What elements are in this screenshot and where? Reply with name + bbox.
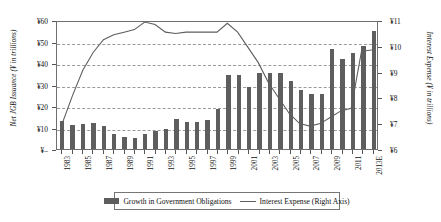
x-axis-tick-mark — [342, 150, 343, 154]
y-axis-right-tick-mark — [378, 21, 382, 22]
y-axis-right-tick-mark — [378, 47, 382, 48]
x-axis-tick-mark — [196, 150, 197, 154]
x-axis-tick-label: 1985 — [85, 156, 93, 170]
x-axis-tick-label: 2013E — [376, 156, 384, 175]
x-axis-tick-mark — [362, 150, 363, 154]
x-axis-tick-mark — [217, 150, 218, 154]
interest-expense-line — [62, 22, 372, 126]
line-series — [57, 22, 377, 149]
x-axis-tick-mark — [238, 150, 239, 154]
x-axis-tick-mark — [103, 150, 104, 154]
x-axis-tick-label: 1999 — [230, 156, 238, 170]
y-axis-left-tick-label: ¥30 — [22, 82, 48, 91]
x-axis-tick-mark — [72, 150, 73, 154]
y-axis-right-tick-label: ¥9 — [390, 69, 416, 78]
x-axis-tick-mark — [331, 150, 332, 154]
y-axis-left-tick-label: ¥50 — [22, 39, 48, 48]
x-axis-tick-label: 2007 — [313, 156, 321, 170]
x-axis-tick-mark — [82, 150, 83, 154]
chart-legend: Growth in Government Obligations Interes… — [114, 192, 340, 210]
x-axis-tick-mark — [248, 150, 249, 154]
legend-entry-bars: Growth in Government Obligations — [104, 197, 231, 206]
x-axis-tick-label: 2003 — [272, 156, 280, 170]
legend-bar-label: Growth in Government Obligations — [123, 197, 231, 206]
y-axis-right-tick-mark — [378, 73, 382, 74]
y-axis-right-tick-label: ¥10 — [390, 43, 416, 52]
x-axis-tick-mark — [310, 150, 311, 154]
y-axis-left-tick-label: ¥40 — [22, 60, 48, 69]
x-axis-tick-mark — [134, 150, 135, 154]
y-axis-left-tick-mark — [52, 150, 56, 151]
y-axis-left-tick-label: ¥– — [22, 146, 48, 155]
x-axis-tick-label: 1983 — [64, 156, 72, 170]
y-axis-left-tick-label: ¥20 — [22, 103, 48, 112]
x-axis-tick-mark — [227, 150, 228, 154]
y-axis-left-title: Net JGB Issuance (¥ in trillions) — [10, 18, 18, 138]
x-axis-tick-mark — [155, 150, 156, 154]
x-axis-tick-mark — [269, 150, 270, 154]
x-axis-tick-label: 2001 — [251, 156, 259, 170]
x-axis-tick-mark — [61, 150, 62, 154]
y-axis-right-tick-mark — [378, 150, 382, 151]
y-axis-left-tick-label: ¥60 — [22, 17, 48, 26]
x-axis-tick-mark — [207, 150, 208, 154]
x-axis-tick-mark — [175, 150, 176, 154]
y-axis-right-tick-label: ¥8 — [390, 94, 416, 103]
x-axis-tick-mark — [300, 150, 301, 154]
x-axis-tick-mark — [186, 150, 187, 154]
y-axis-right-title: Interest Expense (¥ in trillions) — [425, 18, 433, 138]
y-axis-left-tick-label: ¥10 — [22, 125, 48, 134]
x-axis-tick-mark — [259, 150, 260, 154]
y-axis-right-tick-label: ¥6 — [390, 146, 416, 155]
y-axis-right-tick-label: ¥7 — [390, 120, 416, 129]
x-axis-tick-mark — [321, 150, 322, 154]
x-axis-tick-mark — [113, 150, 114, 154]
y-axis-right-tick-mark — [378, 98, 382, 99]
x-axis-tick-mark — [279, 150, 280, 154]
x-axis-tick-mark — [92, 150, 93, 154]
x-axis-tick-label: 1997 — [210, 156, 218, 170]
x-axis-tick-label: 2005 — [293, 156, 301, 170]
x-axis-tick-mark — [124, 150, 125, 154]
x-axis-tick-label: 1987 — [106, 156, 114, 170]
x-axis-tick-label: 1991 — [147, 156, 155, 170]
chart-container: Net JGB Issuance (¥ in trillions) Intere… — [0, 0, 441, 222]
y-axis-right-tick-label: ¥11 — [390, 17, 416, 26]
legend-bar-swatch-icon — [104, 198, 119, 204]
x-axis-tick-label: 1989 — [127, 156, 135, 170]
legend-line-label: Interest Expense (Right Axis) — [260, 197, 350, 206]
x-axis-tick-label: 1993 — [168, 156, 176, 170]
x-axis-tick-mark — [144, 150, 145, 154]
legend-entry-line: Interest Expense (Right Axis) — [240, 197, 350, 206]
y-axis-right-tick-mark — [378, 124, 382, 125]
plot-area — [56, 21, 378, 150]
x-axis-tick-mark — [373, 150, 374, 154]
x-axis-tick-mark — [165, 150, 166, 154]
x-axis-tick-label: 2011 — [355, 156, 363, 170]
legend-line-swatch-icon — [240, 201, 256, 202]
x-axis-tick-label: 2009 — [334, 156, 342, 170]
x-axis-tick-label: 1995 — [189, 156, 197, 170]
x-axis-tick-mark — [290, 150, 291, 154]
x-axis-tick-mark — [352, 150, 353, 154]
